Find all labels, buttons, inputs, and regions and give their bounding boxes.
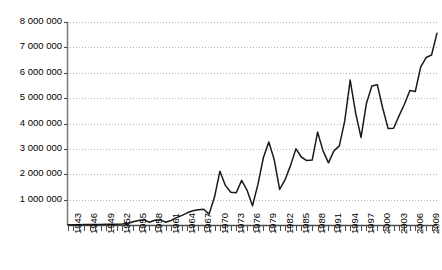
x-axis-tick-label: 1952 bbox=[121, 213, 132, 234]
x-axis-tick-label: 1958 bbox=[153, 213, 164, 234]
x-axis-tick-label: 1943 bbox=[72, 213, 83, 234]
x-axis-tick-label: 1946 bbox=[88, 213, 99, 234]
x-axis-tick-label: 1982 bbox=[284, 213, 295, 234]
x-axis-tick-label: 2006 bbox=[414, 213, 425, 234]
x-axis-tick-label: 2009 bbox=[430, 213, 441, 234]
x-axis-tick-label: 1991 bbox=[332, 213, 343, 234]
x-axis-tick-label: 1988 bbox=[316, 213, 327, 234]
x-axis-tick-label: 1997 bbox=[365, 213, 376, 234]
line-chart: 1 000 0002 000 0003 000 0004 000 0005 00… bbox=[0, 0, 442, 270]
x-axis-tick-label: 1955 bbox=[137, 213, 148, 234]
x-axis-tick-label: 2003 bbox=[398, 213, 409, 234]
axis-lines bbox=[68, 22, 438, 226]
x-axis-tick-label: 1973 bbox=[235, 213, 246, 234]
x-axis-tick-label: 1994 bbox=[349, 213, 360, 234]
gridlines bbox=[70, 23, 437, 201]
x-axis-tick-label: 1961 bbox=[170, 213, 181, 234]
x-axis-tick-label: 1976 bbox=[251, 213, 262, 234]
x-axis-tick-label: 1979 bbox=[267, 213, 278, 234]
x-axis-tick-label: 1985 bbox=[300, 213, 311, 234]
x-axis-tick-label: 1949 bbox=[105, 213, 116, 234]
series-line bbox=[68, 33, 437, 225]
x-axis-tick-label: 2000 bbox=[381, 213, 392, 234]
x-axis-tick-label: 1967 bbox=[202, 213, 213, 234]
data-series-group bbox=[68, 33, 437, 225]
x-axis-tick-label: 1964 bbox=[186, 213, 197, 234]
x-axis-tick-label: 1970 bbox=[219, 213, 230, 234]
